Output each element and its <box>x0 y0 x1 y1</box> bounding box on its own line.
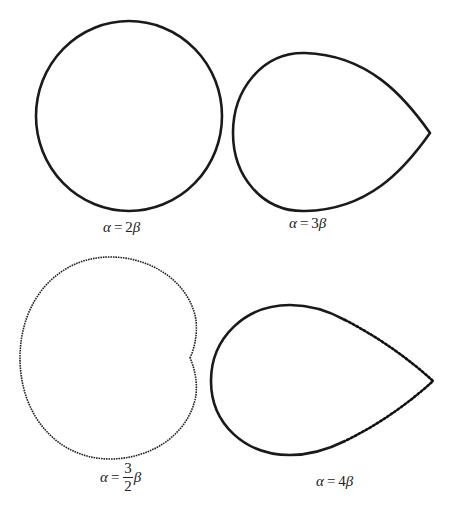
equals-sign: = <box>111 469 119 486</box>
equals-sign: = <box>300 215 308 231</box>
fraction-numerator: 3 <box>123 461 133 478</box>
coefficient: 2 <box>125 219 133 235</box>
circle-curve-alpha-2beta <box>36 21 222 211</box>
equals-sign: = <box>114 219 122 235</box>
fraction-denominator: 2 <box>124 478 132 494</box>
label-alpha-2beta: α=2β <box>103 219 140 236</box>
beta-symbol: β <box>134 469 141 486</box>
equals-sign: = <box>327 473 335 489</box>
coefficient: 3 <box>311 215 319 231</box>
teardrop-curve-alpha-4beta <box>211 305 345 455</box>
alpha-symbol: α <box>103 219 111 235</box>
alpha-symbol: α <box>289 215 297 231</box>
beta-symbol: β <box>133 219 140 235</box>
coefficient: 4 <box>338 473 346 489</box>
fraction: 3 2 <box>123 461 133 494</box>
teardrop-curve-alpha-3beta <box>233 53 430 211</box>
alpha-symbol: α <box>316 473 324 489</box>
beta-symbol: β <box>319 215 326 231</box>
label-alpha-3-2-beta: α= 3 2 β <box>100 461 141 494</box>
figure-canvas <box>0 0 451 518</box>
label-alpha-3beta: α=3β <box>289 215 326 232</box>
teardrop-tip-alpha-4beta <box>345 320 433 441</box>
cardioid-curve-alpha-3-2-beta <box>20 257 196 459</box>
alpha-symbol: α <box>100 469 108 486</box>
label-alpha-4beta: α=4β <box>316 473 353 490</box>
beta-symbol: β <box>346 473 353 489</box>
